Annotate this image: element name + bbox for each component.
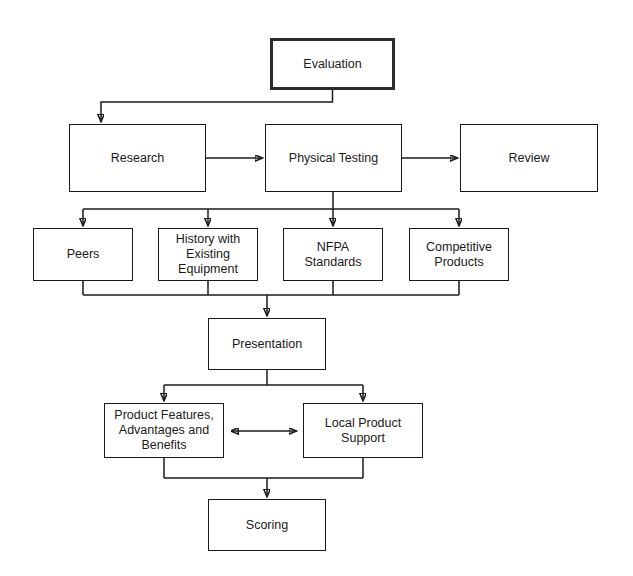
node-history-existing-equipment[interactable]: History with Existing Equipment xyxy=(158,228,258,281)
node-nfpa-standards-label: NFPA Standards xyxy=(301,240,366,270)
node-research[interactable]: Research xyxy=(69,124,206,192)
edge-bus-row3-to-presentation xyxy=(83,281,459,316)
node-peers[interactable]: Peers xyxy=(33,228,133,281)
node-product-features-label: Product Features, Advantages and Benefit… xyxy=(110,408,217,453)
node-local-product-support-label: Local Product Support xyxy=(321,416,405,446)
node-peers-label: Peers xyxy=(63,247,104,262)
node-physical-testing-label: Physical Testing xyxy=(285,151,382,166)
flowchart-canvas: Evaluation Research Physical Testing Rev… xyxy=(0,0,633,576)
node-product-features[interactable]: Product Features, Advantages and Benefit… xyxy=(104,403,224,458)
node-review-label: Review xyxy=(505,151,554,166)
node-competitive-products[interactable]: Competitive Products xyxy=(409,228,509,281)
node-evaluation[interactable]: Evaluation xyxy=(270,38,395,90)
node-history-existing-equipment-label: History with Existing Equipment xyxy=(172,232,245,277)
edge-bus-row5-to-scoring xyxy=(164,458,363,497)
edge-evaluation-to-research xyxy=(101,90,333,122)
node-presentation[interactable]: Presentation xyxy=(208,318,326,370)
node-competitive-products-label: Competitive Products xyxy=(422,240,496,270)
node-evaluation-label: Evaluation xyxy=(299,57,365,72)
node-physical-testing[interactable]: Physical Testing xyxy=(265,124,402,192)
edge-bus-presentation-to-row5 xyxy=(164,370,363,401)
edge-bus-testing-to-row3 xyxy=(83,192,459,226)
node-scoring-label: Scoring xyxy=(242,518,292,533)
node-nfpa-standards[interactable]: NFPA Standards xyxy=(283,228,383,281)
node-research-label: Research xyxy=(107,151,169,166)
node-presentation-label: Presentation xyxy=(228,337,306,352)
node-review[interactable]: Review xyxy=(460,124,598,192)
node-scoring[interactable]: Scoring xyxy=(208,499,326,551)
node-local-product-support[interactable]: Local Product Support xyxy=(303,403,423,458)
